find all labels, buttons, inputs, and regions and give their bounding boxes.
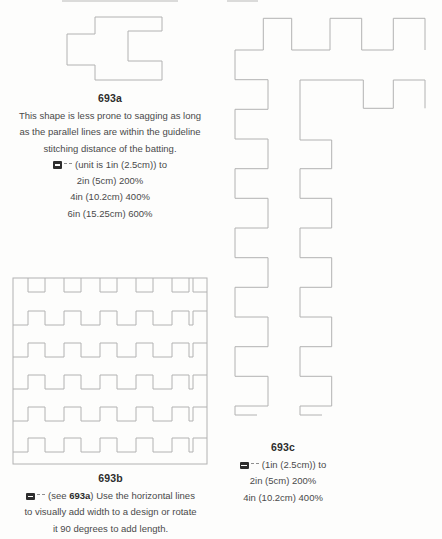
caption-693c: 693c [188, 441, 378, 453]
enlarge-marks-icon [251, 461, 261, 468]
note-line: stitching distance of the batting. [2, 141, 218, 157]
motif-693b-shape [13, 278, 207, 464]
motif-693a-shape [67, 17, 162, 80]
note-line: to visually add width to a design or rot… [3, 504, 218, 520]
enlarge-line: 4in (10.2cm) 400% [188, 490, 378, 506]
note-693c: (1in (2.5cm)) to 2in (5cm) 200% 4in (10.… [188, 457, 378, 506]
note-suffix: ) Use the horizontal lines [90, 490, 195, 501]
note-line: it 90 degrees to add length. [3, 521, 218, 537]
note-line: (see 693a) Use the horizontal lines [3, 488, 218, 504]
enlarge-marks-icon [37, 492, 47, 499]
enlarge-intro: (1in (2.5cm)) to [262, 459, 326, 470]
caption-693b: 693b [3, 472, 218, 484]
photocopier-icon [240, 462, 249, 470]
enlarge-line: 4in (10.2cm) 400% [2, 189, 218, 205]
enlarge-intro: (unit is 1in (2.5cm)) to [75, 159, 167, 170]
motif-693c-shape [235, 18, 425, 415]
enlarge-line: (unit is 1in (2.5cm)) to [2, 157, 218, 173]
note-prefix: (see [48, 490, 69, 501]
photocopier-icon [26, 493, 35, 501]
enlarge-line: (1in (2.5cm)) to [188, 457, 378, 473]
figure-reference: 693a [69, 490, 90, 501]
enlarge-marks-icon [64, 161, 74, 168]
note-693b: (see 693a) Use the horizontal lines to v… [3, 488, 218, 537]
photocopier-icon [53, 161, 62, 169]
note-line: as the parallel lines are within the gui… [2, 124, 218, 140]
book-page: 693a This shape is less prone to sagging… [0, 0, 442, 539]
note-693a: This shape is less prone to sagging as l… [2, 108, 218, 222]
note-line: This shape is less prone to sagging as l… [2, 108, 218, 124]
enlarge-line: 6in (15.25cm) 600% [2, 206, 218, 222]
caption-693a: 693a [2, 92, 218, 104]
enlarge-line: 2in (5cm) 200% [188, 473, 378, 489]
enlarge-line: 2in (5cm) 200% [2, 173, 218, 189]
